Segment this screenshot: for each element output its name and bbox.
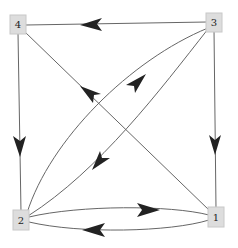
edges [18, 22, 216, 230]
arrowhead-right-icon [137, 203, 160, 217]
arrowhead-down-left-icon [92, 151, 110, 170]
edge-2-to-1 [29, 208, 209, 217]
node-label: 3 [211, 17, 217, 28]
node-label: 2 [18, 215, 24, 226]
edge-1-to-2 [29, 220, 209, 230]
edge-1-to-4 [25, 32, 210, 211]
edge-4-to-2 [18, 33, 21, 212]
graph-canvas: 4 3 2 1 [0, 0, 238, 248]
node-1[interactable]: 1 [208, 207, 224, 227]
arrowhead-up-right-icon [126, 74, 146, 93]
node-2[interactable]: 2 [13, 210, 29, 230]
arrowhead-up-left-icon [80, 86, 101, 103]
edge-3-to-4 [26, 22, 207, 25]
node-label: 1 [213, 212, 219, 223]
node-3[interactable]: 3 [206, 13, 222, 32]
edge-3-to-1 [214, 30, 216, 209]
node-label: 4 [15, 19, 21, 30]
edge-2-to-3 [27, 28, 208, 213]
arrowhead-left-icon [80, 18, 102, 31]
node-4[interactable]: 4 [10, 15, 26, 34]
